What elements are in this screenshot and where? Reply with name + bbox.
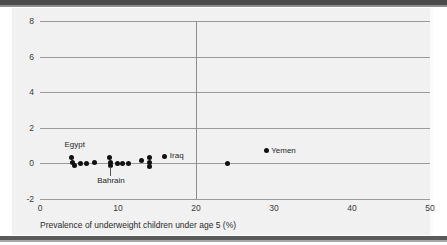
- y-tick-label-8: 8: [10, 17, 34, 26]
- vertical-reference-20: [196, 21, 197, 199]
- gridline-y-6: [40, 57, 430, 58]
- y-tick-label--2: -2: [10, 195, 34, 204]
- data-point[interactable]: [72, 163, 77, 168]
- data-point[interactable]: [84, 161, 89, 166]
- figure-root: 86420-201020304050EgyptBahrainIraqYemenP…: [0, 0, 447, 245]
- data-point[interactable]: [107, 155, 112, 160]
- x-tick-label-10: 10: [103, 204, 133, 213]
- data-point[interactable]: [162, 154, 167, 159]
- bottom-rule-shadow: [0, 240, 447, 242]
- x-tick-label-30: 30: [259, 204, 289, 213]
- gridline-y-0: [40, 163, 430, 164]
- data-point[interactable]: [69, 155, 74, 160]
- x-axis-title: Prevalence of underweight children under…: [40, 221, 236, 230]
- gridline-y-4: [40, 92, 430, 93]
- point-label-egypt: Egypt: [65, 141, 85, 149]
- y-tick-label-0: 0: [10, 159, 34, 168]
- gridline-y--2: [40, 199, 430, 200]
- data-point[interactable]: [78, 161, 83, 166]
- data-point[interactable]: [126, 161, 131, 166]
- data-point[interactable]: [264, 148, 269, 153]
- point-label-bahrain: Bahrain: [97, 177, 125, 185]
- data-point[interactable]: [147, 155, 152, 160]
- data-point[interactable]: [115, 161, 120, 166]
- x-tick-label-40: 40: [337, 204, 367, 213]
- point-label-yemen: Yemen: [271, 147, 296, 155]
- y-tick-label-6: 6: [10, 53, 34, 62]
- x-tick-label-50: 50: [415, 204, 445, 213]
- leader-line-bahrain: [110, 167, 111, 176]
- gridline-y-2: [40, 128, 430, 129]
- y-tick-label-2: 2: [10, 124, 34, 133]
- plot-area: 86420-201020304050EgyptBahrainIraqYemenP…: [0, 0, 447, 245]
- x-tick-label-20: 20: [181, 204, 211, 213]
- gridline-y-8: [40, 21, 430, 22]
- point-label-iraq: Iraq: [170, 152, 184, 160]
- data-point[interactable]: [225, 161, 230, 166]
- y-tick-label-4: 4: [10, 88, 34, 97]
- x-tick-label-0: 0: [25, 204, 55, 213]
- data-point[interactable]: [120, 161, 125, 166]
